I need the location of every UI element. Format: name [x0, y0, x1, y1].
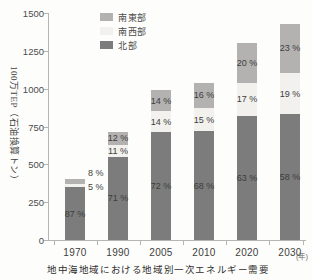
- y-tick-label: 500: [4, 159, 44, 170]
- x-axis-line: [48, 240, 306, 241]
- legend-item: 南東部: [100, 10, 147, 24]
- y-tick-label: 0: [4, 235, 44, 246]
- y-tick-label: 250: [4, 197, 44, 208]
- legend-swatch: [100, 13, 113, 21]
- percent-label: 17 %: [237, 94, 258, 104]
- percent-label: 14 %: [151, 117, 172, 127]
- y-tick-mark: [44, 89, 48, 90]
- percent-label: 11 %: [108, 146, 128, 156]
- y-tick-label: 750: [4, 121, 44, 132]
- x-axis-year-label: 1970: [63, 247, 86, 258]
- percent-label: 15 %: [194, 115, 215, 125]
- x-tick-mark: [140, 241, 141, 245]
- stacked-bar-chart: 100万TEP（石油換算トン） 0250500750100012501500 8…: [0, 0, 312, 280]
- percent-label: 63 %: [237, 173, 258, 183]
- x-tick-mark: [183, 241, 184, 245]
- legend-item: 南西部: [100, 24, 147, 38]
- x-axis-year-label: 1990: [106, 247, 129, 258]
- percent-label: 8 %: [88, 168, 104, 178]
- x-tick-mark: [97, 241, 98, 245]
- x-tick-mark: [54, 241, 55, 245]
- percent-label: 58 %: [280, 172, 301, 182]
- chart-caption: 地中海地域における地域別一次エネルギー需要: [47, 262, 270, 276]
- y-tick-label: 1000: [4, 83, 44, 94]
- percent-label: 72 %: [151, 181, 172, 191]
- y-tick-mark: [44, 127, 48, 128]
- legend-label: 南西部: [118, 25, 147, 38]
- legend: 南東部南西部北部: [100, 10, 147, 52]
- y-tick-mark: [44, 164, 48, 165]
- percent-label: 14 %: [151, 96, 172, 106]
- legend-label: 北部: [118, 39, 137, 52]
- x-axis-year-label: 2005: [149, 247, 172, 258]
- percent-label: 71 %: [108, 193, 129, 203]
- percent-label: 68 %: [194, 181, 215, 191]
- y-axis-line: [48, 13, 49, 240]
- x-tick-mark: [269, 241, 270, 245]
- percent-label: 87 %: [65, 209, 86, 219]
- y-tick-mark: [44, 202, 48, 203]
- x-tick-mark: [226, 241, 227, 245]
- percent-label: 12 %: [108, 133, 129, 143]
- percent-label: 19 %: [280, 89, 301, 99]
- y-tick-mark: [44, 51, 48, 52]
- legend-item: 北部: [100, 38, 147, 52]
- legend-label: 南東部: [118, 11, 147, 24]
- legend-swatch: [100, 27, 113, 35]
- percent-label: 5 %: [88, 182, 104, 192]
- y-tick-mark: [44, 240, 48, 241]
- x-axis-year-label: 2020: [235, 247, 258, 258]
- x-tick-mark: [303, 241, 304, 245]
- x-axis-year-label: 2010: [192, 247, 215, 258]
- y-tick-label: 1500: [4, 8, 44, 19]
- y-tick-label: 1250: [4, 45, 44, 56]
- legend-swatch: [100, 41, 113, 49]
- percent-label: 16 %: [194, 90, 215, 100]
- percent-label: 20 %: [237, 58, 258, 68]
- percent-label: 23 %: [280, 43, 301, 53]
- y-tick-mark: [44, 13, 48, 14]
- x-axis-unit-label: (年): [296, 250, 308, 261]
